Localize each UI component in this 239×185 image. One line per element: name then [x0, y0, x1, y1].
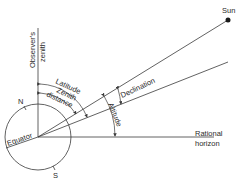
north-label: N	[18, 97, 23, 106]
rational-horizon-label-1: Rational	[195, 129, 223, 138]
equator-label: Equator	[6, 131, 34, 148]
rational-horizon-label-2: horizon	[195, 139, 220, 148]
south-tick	[53, 166, 55, 170]
celestial-diagram: Sun Observer's zenith Latitude Zenith di…	[0, 0, 239, 185]
observers-zenith-label-2: zenith	[38, 42, 47, 62]
sun-dot	[226, 18, 231, 23]
observers-zenith-label-1: Observer's	[28, 32, 37, 68]
altitude-label: Altitude	[106, 101, 124, 128]
sun-label: Sun	[222, 6, 235, 15]
sun-line	[38, 20, 228, 137]
south-label: S	[53, 171, 58, 180]
declination-label: Declination	[119, 76, 156, 100]
